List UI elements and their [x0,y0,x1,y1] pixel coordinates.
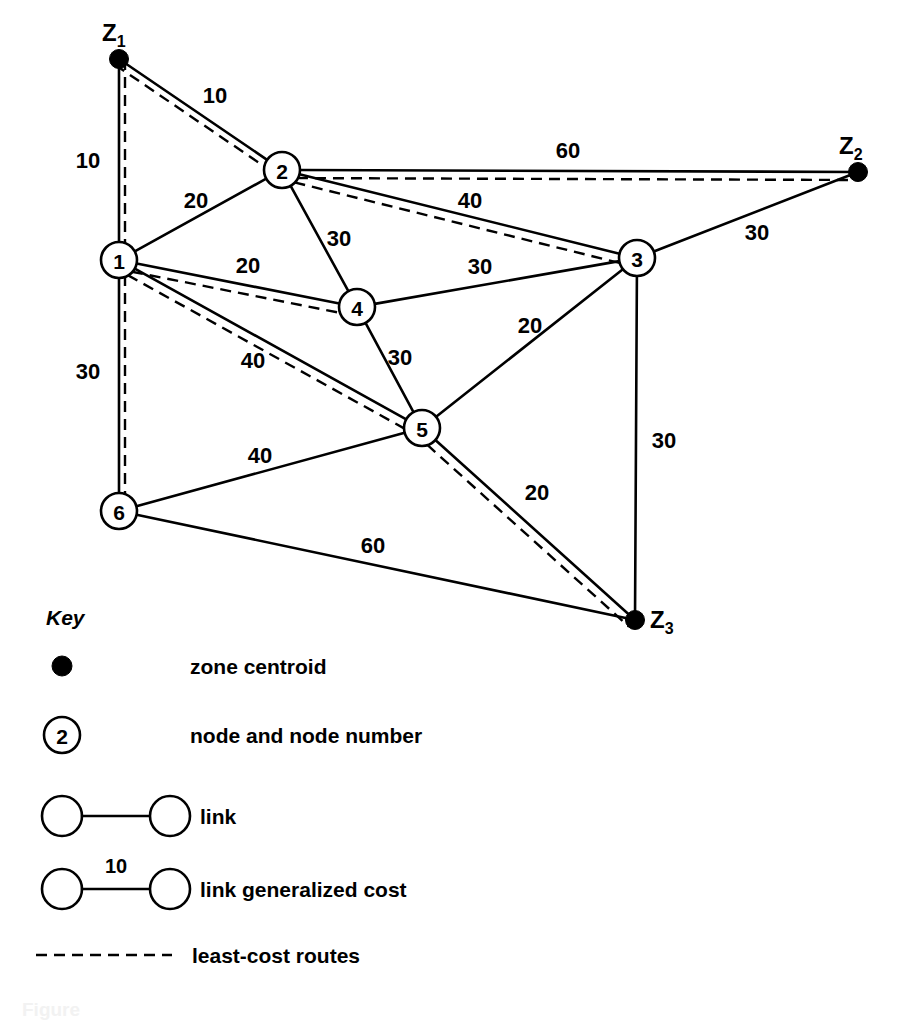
route-1-4 [132,272,341,313]
link-4-3 [375,261,620,304]
key-item-label-link: link [200,805,236,828]
key-title: Key [46,606,86,629]
node-number-4: 4 [351,297,363,320]
zone-label-Z2: Z2 [839,132,863,163]
key-link-cost-value: 10 [105,855,127,877]
link-3-Z3 [635,276,637,620]
centroid-dot-Z2 [849,163,868,182]
zone-label-Z1: Z1 [102,19,126,50]
node-5: 5 [404,410,440,446]
link-right-circle-icon [150,796,190,836]
centroid-Z2: Z2 [839,132,868,182]
centroid-dot-Z1 [110,50,129,69]
node-number-1: 1 [113,250,125,273]
cost-labels-layer: 1010206040302030302030403030402060 [76,83,769,558]
cost-label-2-Z2: 60 [556,138,580,163]
cost-label-Z1-1: 10 [76,148,100,173]
cost-label-3-Z2: 30 [745,220,769,245]
node-2: 2 [264,152,300,188]
node-number-3: 3 [631,248,643,271]
node-1: 1 [101,242,137,278]
centroid-Z3: Z3 [626,606,674,637]
cost-label-4-5: 30 [388,345,412,370]
cost-label-3-Z3: 30 [652,428,676,453]
figure-caption: Figure [22,999,80,1021]
node-6: 6 [101,493,137,529]
link-2-Z2 [300,170,858,172]
least-cost-routes-layer [115,59,858,627]
key-item-label-node: node and node number [190,724,422,747]
cost-label-3-5: 20 [518,313,542,338]
cost-label-6-5: 40 [248,443,272,468]
key-item-label-least-cost-routes: least-cost routes [192,944,360,967]
link-6-Z3 [137,515,635,620]
key-item-label-link-cost: link generalized cost [200,878,407,901]
cost-label-Z1-2: 10 [203,83,227,108]
cost-label-1-6: 30 [76,359,100,384]
key-item-link-cost: 10 link generalized cost [42,855,407,909]
link-cost-left-circle-icon [42,869,82,909]
centroids-layer: Z1Z2Z3 [102,19,868,637]
link-5-Z3 [435,440,635,620]
route-2-Z2 [297,178,858,180]
node-number-2: 2 [276,160,288,183]
cost-label-1-2: 20 [184,188,208,213]
route-Z1-2 [115,65,266,168]
key-item-node: 2 node and node number [44,717,422,753]
key-item-link: link [42,796,236,836]
cost-label-4-3: 30 [468,254,492,279]
centroid-dot-Z3 [626,611,645,630]
key-node-number: 2 [56,725,68,748]
cost-label-2-3: 40 [458,188,482,213]
zone-centroid-dot-icon [52,656,72,676]
key-legend: Key zone centroid 2 node and node number… [36,606,422,967]
cost-label-2-4: 30 [327,226,351,251]
node-4: 4 [339,289,375,325]
link-left-circle-icon [42,796,82,836]
cost-label-1-4: 20 [236,253,260,278]
cost-label-1-5: 40 [241,348,265,373]
key-item-least-cost-routes: least-cost routes [36,944,360,967]
key-item-label-zone-centroid: zone centroid [190,655,327,678]
node-3: 3 [619,240,655,276]
cost-label-5-Z3: 20 [525,480,549,505]
link-cost-right-circle-icon [150,869,190,909]
key-item-zone-centroid: zone centroid [52,655,327,678]
node-number-6: 6 [113,501,125,524]
links-layer [119,59,858,620]
node-number-5: 5 [416,418,428,441]
zone-label-Z3: Z3 [650,606,674,637]
cost-label-6-Z3: 60 [361,533,385,558]
centroid-Z1: Z1 [102,19,129,69]
link-Z1-2 [119,59,267,160]
route-5-Z3 [427,445,629,627]
link-3-5 [436,269,623,417]
